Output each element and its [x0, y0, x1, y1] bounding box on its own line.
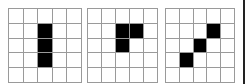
empty-cell [102, 24, 116, 39]
empty-cell [144, 68, 158, 83]
empty-cell [180, 39, 194, 54]
right-border-line [243, 0, 245, 84]
empty-cell [67, 39, 82, 54]
empty-cell [166, 24, 180, 39]
empty-cell [207, 39, 221, 54]
empty-cell [88, 9, 102, 24]
empty-cell [102, 9, 116, 24]
empty-cell [144, 24, 158, 39]
empty-cell [9, 9, 24, 24]
empty-cell [194, 68, 208, 83]
empty-cell [102, 68, 116, 83]
empty-cell [221, 24, 235, 39]
empty-cell [144, 9, 158, 24]
filled-cell [38, 53, 53, 68]
empty-cell [130, 39, 144, 54]
filled-cell [116, 39, 130, 54]
empty-cell [67, 9, 82, 24]
empty-cell [38, 68, 53, 83]
empty-cell [53, 39, 68, 54]
filled-cell [38, 24, 53, 39]
filled-cell [38, 39, 53, 54]
empty-cell [24, 9, 39, 24]
empty-cell [9, 24, 24, 39]
empty-cell [67, 24, 82, 39]
empty-cell [144, 53, 158, 68]
grid-diagonal [165, 8, 235, 83]
empty-cell [207, 9, 221, 24]
empty-cell [9, 53, 24, 68]
empty-cell [166, 39, 180, 54]
empty-cell [88, 24, 102, 39]
empty-cell [194, 53, 208, 68]
empty-cell [88, 53, 102, 68]
empty-cell [38, 9, 53, 24]
empty-cell [221, 9, 235, 24]
filled-cell [194, 39, 208, 54]
empty-cell [144, 39, 158, 54]
empty-cell [207, 68, 221, 83]
empty-cell [130, 9, 144, 24]
empty-cell [166, 68, 180, 83]
empty-cell [194, 24, 208, 39]
empty-cell [166, 9, 180, 24]
empty-cell [102, 39, 116, 54]
empty-cell [221, 53, 235, 68]
empty-cell [116, 68, 130, 83]
empty-cell [24, 39, 39, 54]
empty-cell [53, 53, 68, 68]
empty-cell [102, 53, 116, 68]
empty-cell [180, 68, 194, 83]
empty-cell [53, 68, 68, 83]
empty-cell [130, 53, 144, 68]
empty-cell [24, 53, 39, 68]
filled-cell [116, 24, 130, 39]
empty-cell [116, 53, 130, 68]
grid-vertical-bar [8, 8, 82, 83]
empty-cell [67, 53, 82, 68]
filled-cell [130, 24, 144, 39]
empty-cell [166, 53, 180, 68]
empty-cell [53, 24, 68, 39]
empty-cell [67, 68, 82, 83]
empty-cell [207, 53, 221, 68]
empty-cell [24, 24, 39, 39]
empty-cell [9, 39, 24, 54]
empty-cell [194, 9, 208, 24]
empty-cell [88, 39, 102, 54]
grid-l-shape [87, 8, 158, 83]
empty-cell [130, 68, 144, 83]
empty-cell [24, 68, 39, 83]
empty-cell [180, 9, 194, 24]
empty-cell [9, 68, 24, 83]
filled-cell [207, 24, 221, 39]
empty-cell [53, 9, 68, 24]
empty-cell [88, 68, 102, 83]
filled-cell [180, 53, 194, 68]
empty-cell [180, 24, 194, 39]
empty-cell [221, 39, 235, 54]
empty-cell [116, 9, 130, 24]
empty-cell [221, 68, 235, 83]
